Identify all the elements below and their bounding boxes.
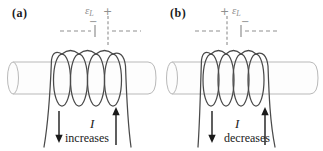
current-arrow-up [112, 107, 119, 145]
rod-graphic [167, 62, 319, 94]
plus-sign: + [220, 5, 229, 18]
current-arrow-down [55, 111, 62, 143]
panel-label: (b) [170, 6, 186, 21]
panel-a-drawing [0, 0, 161, 151]
panel-label: (a) [12, 6, 28, 21]
emf-battery-symbol [60, 16, 141, 46]
minus-sign: − [89, 16, 97, 27]
rod-graphic [8, 62, 157, 94]
panel-a: (a) εL + − I increases [0, 0, 161, 151]
emf-label: εL [232, 4, 241, 18]
emf-battery-symbol [195, 16, 279, 46]
current-symbol: I [90, 116, 94, 132]
current-arrow-down [208, 111, 215, 143]
minus-sign: − [241, 16, 249, 27]
panel-b: (b) + εL − I decreases [162, 0, 323, 151]
plus-sign: + [103, 5, 112, 18]
current-change-label: increases [65, 131, 109, 146]
current-change-label: decreases [224, 131, 270, 146]
inductor-emf-figure: (a) εL + − I increases [0, 0, 323, 151]
current-symbol: I [235, 116, 239, 132]
